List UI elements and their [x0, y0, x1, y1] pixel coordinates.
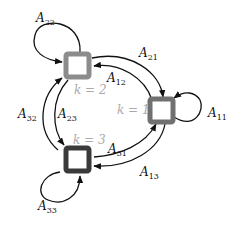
state-diagram: k = 2 k = 1 k = 3 A22 A21 A12 A11 A32 A2…: [0, 0, 241, 229]
label-a23: A23: [57, 107, 77, 123]
label-a21: A21: [138, 46, 158, 62]
edge-a11: [174, 93, 201, 121]
state-1-label: k = 1: [117, 103, 150, 117]
label-a11: A11: [207, 106, 227, 122]
label-a32: A32: [17, 107, 37, 123]
edge-a33: [41, 172, 80, 202]
label-a31: A31: [107, 142, 127, 158]
state-3-box: [66, 148, 89, 171]
state-1-box: [150, 99, 173, 122]
state-2-box: [66, 54, 89, 77]
label-a22: A22: [35, 11, 55, 27]
label-a13: A13: [139, 165, 159, 181]
state-2-label: k = 2: [74, 83, 107, 97]
state-3-label: k = 3: [73, 133, 106, 147]
label-a12: A12: [106, 71, 126, 87]
